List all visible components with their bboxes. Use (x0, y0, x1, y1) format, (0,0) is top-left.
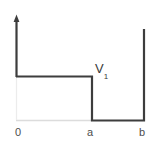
potential-well-plot (0, 0, 158, 144)
x-tick-label-origin: 0 (15, 127, 21, 138)
potential-step-curve (16, 29, 144, 121)
v-axis-arrowhead (14, 15, 20, 23)
potential-height-label: V1 (95, 62, 108, 79)
x-tick-label-a: a (87, 127, 93, 138)
potential-symbol: V (95, 61, 104, 76)
potential-subscript: 1 (104, 72, 108, 81)
x-tick-label-b: b (139, 127, 145, 138)
potential-well-figure: 0 a b V1 (0, 0, 158, 144)
